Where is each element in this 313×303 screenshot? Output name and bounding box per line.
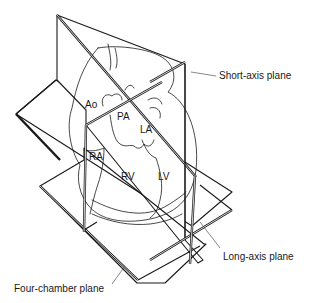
- short-axis-plane-label: Short-axis plane: [219, 71, 291, 81]
- long-axis-leader-line: [200, 222, 220, 248]
- chamber-label-ao: Ao: [85, 99, 98, 110]
- chamber-label-ra: RA: [89, 151, 103, 162]
- long-axis-plane-label: Long-axis plane: [223, 252, 294, 262]
- chamber-label-pa: PA: [117, 111, 130, 122]
- chamber-label-lv: LV: [158, 171, 170, 182]
- four-chamber-plane-label: Four-chamber plane: [14, 284, 104, 294]
- chamber-label-la: LA: [140, 124, 153, 135]
- chamber-label-rv: RV: [121, 171, 135, 182]
- four-chamber-leader-line: [112, 266, 125, 284]
- short-axis-leader-line: [191, 72, 216, 76]
